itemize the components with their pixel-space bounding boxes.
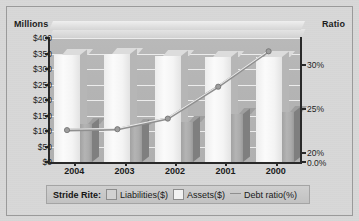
legend-label-debt-ratio: Debt ratio(%): [244, 190, 297, 200]
left-axis-tick-label: $250: [33, 80, 52, 90]
left-axis-tick-label: $200: [33, 95, 52, 105]
bar-front-face: [104, 54, 130, 162]
right-axis-tick-label: 20%: [307, 148, 324, 158]
legend-label-assets: Assets($): [187, 190, 225, 200]
left-axis-tick-label: $300: [33, 64, 52, 74]
left-axis-tick-label: $0: [43, 157, 52, 167]
left-axis-tick-label: $150: [33, 111, 52, 121]
liabilities-swatch-icon: [106, 189, 117, 200]
bar-front-face: [181, 122, 193, 162]
bar-front-face: [130, 125, 142, 162]
gridline: [49, 38, 301, 39]
bar-front-face: [256, 57, 282, 162]
bar-assets-2000: [256, 57, 282, 162]
x-axis-label-2004: 2004: [64, 166, 84, 176]
left-axis-tick-label: $50: [38, 142, 52, 152]
bar-assets-2002: [155, 56, 181, 162]
x-axis-label-2003: 2003: [115, 166, 135, 176]
left-axis-tick-label: $400: [33, 33, 52, 43]
bar-liabilities-2001: [231, 114, 243, 162]
right-axis-tick: [301, 161, 306, 163]
legend-label-liabilities: Liabilities($): [120, 190, 168, 200]
plot-top-lip: [49, 21, 305, 30]
debt-ratio-line-swatch-icon: [230, 193, 241, 196]
bar-liabilities-2003: [130, 125, 142, 162]
bar-liabilities-2000: [282, 112, 294, 162]
bar-liabilities-2002: [181, 122, 193, 162]
x-axis-label-2000: 2000: [266, 166, 286, 176]
legend-item-debt-ratio[interactable]: Debt ratio(%): [230, 190, 297, 200]
legend-item-liabilities[interactable]: Liabilities($): [106, 189, 168, 200]
bar-liabilities-2004: [80, 124, 92, 162]
right-axis-title: Ratio: [322, 19, 345, 29]
bar-front-face: [155, 56, 181, 162]
bar-front-face: [205, 57, 231, 162]
bar-assets-2003: [104, 54, 130, 162]
legend-title: Stride Rite:: [53, 190, 101, 200]
bar-side-face: [92, 119, 99, 162]
left-axis-title: Millions: [14, 19, 48, 29]
chart-legend: Stride Rite: Liabilities($) Assets($) De…: [46, 185, 310, 204]
bar-front-face: [54, 55, 80, 162]
bar-front-face: [231, 114, 243, 162]
bar-front-face: [282, 112, 294, 162]
bar-front-face: [80, 124, 92, 162]
left-axis-tick-label: $100: [33, 126, 52, 136]
right-axis-tick-label: 30%: [307, 60, 324, 70]
assets-swatch-icon: [173, 189, 184, 200]
bar-assets-2004: [54, 55, 80, 162]
right-axis-line: [300, 37, 302, 164]
x-axis-label-2001: 2001: [215, 166, 235, 176]
right-axis-tick-label: 25%: [307, 104, 324, 114]
bar-side-face: [243, 108, 250, 162]
chart-screenshot: Millions Ratio $0$50$100$150$200$250$300…: [0, 0, 359, 221]
plot-area: [49, 38, 301, 162]
right-axis-tick: [301, 152, 306, 154]
right-axis-tick-label: 0.0%: [307, 158, 326, 168]
right-axis-tick: [301, 108, 306, 110]
x-axis-label-2002: 2002: [165, 166, 185, 176]
right-axis-tick: [301, 64, 306, 66]
bar-side-face: [193, 117, 200, 162]
legend-item-assets[interactable]: Assets($): [173, 189, 225, 200]
bar-side-face: [142, 119, 149, 162]
left-axis-tick-label: $350: [33, 49, 52, 59]
bar-assets-2001: [205, 57, 231, 162]
